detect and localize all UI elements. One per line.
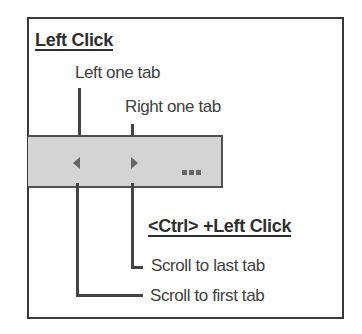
tab-scroll-bar — [28, 135, 223, 188]
ctrl-left-click-heading: <Ctrl> +Left Click — [148, 216, 291, 237]
overflow-dot-icon — [182, 170, 187, 175]
left-one-tab-label: Left one tab — [75, 63, 160, 83]
scroll-to-first-tab-label: Scroll to first tab — [150, 286, 264, 306]
right-arrow-connector-bottom — [131, 183, 134, 269]
right-one-tab-label: Right one tab — [125, 97, 221, 117]
scroll-to-last-tab-label: Scroll to last tab — [151, 256, 265, 276]
first-tab-connector — [76, 294, 143, 297]
overflow-dot-icon — [189, 170, 194, 175]
last-tab-connector — [131, 266, 143, 269]
overflow-dot-icon — [196, 170, 201, 175]
left-arrow-connector-bottom — [76, 183, 79, 297]
left-click-heading: Left Click — [35, 30, 113, 51]
scroll-right-arrow-icon[interactable] — [131, 157, 138, 169]
scroll-left-arrow-icon[interactable] — [73, 157, 80, 169]
